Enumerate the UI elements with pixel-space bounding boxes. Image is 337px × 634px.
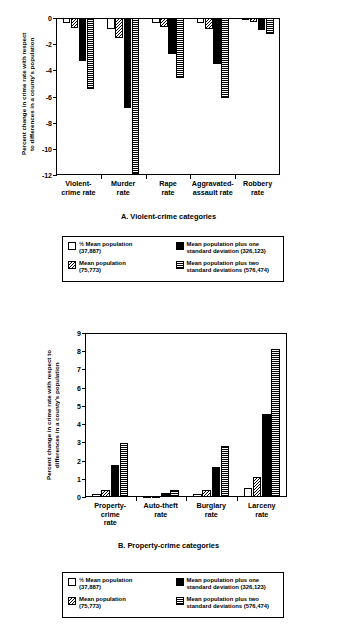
panel-b-x-label: Burglary rate: [186, 502, 237, 519]
panel-a-ytick-label: -10: [32, 145, 52, 152]
legend-swatch-plus-two-sd-icon: [176, 597, 184, 605]
bar: [92, 494, 101, 497]
panel-a-ytick-label: -8: [32, 119, 52, 126]
panel-b-x-label: Auto-theft rate: [136, 502, 187, 519]
legend-label-plus-two-sd: Mean population plus two standard deviat…: [187, 596, 270, 610]
bar: [152, 18, 160, 23]
bar: [262, 414, 271, 497]
panel-a-ytick-mark: [53, 175, 57, 176]
legend-label-mean: Mean population (75,773): [79, 260, 126, 274]
bar: [258, 18, 266, 30]
legend-item-plus-two-sd: Mean population plus two standard deviat…: [176, 596, 280, 613]
panel-a-caption: A. Violent-crime categories: [0, 212, 337, 221]
panel-b-xtick-mark: [136, 497, 137, 501]
bar: [202, 490, 211, 497]
legend-swatch-plus-two-sd-icon: [176, 261, 184, 269]
panel-b-ytick-label: 9: [61, 330, 81, 337]
panel-a-xtick-mark: [101, 175, 102, 179]
legend-swatch-half-mean-icon: [68, 578, 76, 586]
panel-a-x-label: Aggravated- assault rate: [190, 180, 235, 197]
bar: [266, 18, 274, 34]
panel-b-ytick-label: 3: [61, 439, 81, 446]
panel-b-ytick-label: 4: [61, 421, 81, 428]
legend-label-plus-two-sd: Mean population plus two standard deviat…: [187, 260, 270, 274]
panel-a-ytick-label: -6: [32, 93, 52, 100]
bar: [120, 443, 129, 497]
panel-b: Percent change in crime rate with respec…: [0, 325, 337, 565]
bar: [176, 18, 184, 78]
legend-label-plus-one-sd: Mean population plus one standard deviat…: [187, 577, 266, 591]
panel-b-x-label: Property- crime rate: [85, 502, 136, 528]
legend-panel-b: ½ Mean population (37,887)Mean populatio…: [62, 572, 284, 618]
bar: [124, 18, 132, 108]
legend-label-plus-one-sd: Mean population plus one standard deviat…: [187, 241, 266, 255]
bar: [193, 494, 202, 497]
panel-a-xtick-mark: [146, 175, 147, 179]
panel-a: Percent change in crime rate with respec…: [0, 0, 337, 225]
bar: [170, 490, 179, 497]
bar: [242, 18, 250, 20]
crime-rate-figure: Percent change in crime rate with respec…: [0, 0, 337, 634]
legend-swatch-plus-one-sd-icon: [176, 578, 184, 586]
panel-a-ytick-label: -12: [32, 172, 52, 179]
legend-item-plus-two-sd: Mean population plus two standard deviat…: [176, 260, 280, 277]
panel-b-ytick-mark: [82, 497, 86, 498]
bar: [221, 18, 229, 98]
panel-a-ytick-label: -2: [32, 41, 52, 48]
bar: [132, 18, 140, 174]
legend-swatch-half-mean-icon: [68, 242, 76, 250]
panel-b-xtick-mark: [186, 497, 187, 501]
panel-b-ytick-label: 6: [61, 384, 81, 391]
legend-swatch-plus-one-sd-icon: [176, 242, 184, 250]
panel-b-ytick-label: 1: [61, 475, 81, 482]
bar: [101, 490, 110, 497]
legend-item-half-mean: ½ Mean population (37,887): [68, 241, 172, 258]
legend-label-half-mean: ½ Mean population (37,887): [79, 577, 132, 591]
bar: [79, 18, 87, 61]
panel-b-ytick-label: 5: [61, 402, 81, 409]
bar: [212, 467, 221, 497]
panel-a-x-label: Rape rate: [146, 180, 191, 197]
panel-b-x-label: Larceny rate: [237, 502, 288, 519]
bar: [63, 18, 71, 23]
legend-item-mean: Mean population (75,773): [68, 596, 172, 613]
panel-b-caption: B. Property-crime categories: [0, 541, 337, 550]
legend-swatch-mean-icon: [68, 261, 76, 269]
bar: [71, 18, 79, 28]
panel-b-xtick-mark: [237, 497, 238, 501]
bar: [168, 18, 176, 54]
panel-a-ytick-label: -4: [32, 67, 52, 74]
panel-a-x-label: Violent- crime rate: [56, 180, 101, 197]
panel-a-xtick-mark: [235, 175, 236, 179]
bar: [271, 349, 280, 497]
bar: [205, 18, 213, 29]
bar: [115, 18, 123, 38]
legend-item-plus-one-sd: Mean population plus one standard deviat…: [176, 577, 280, 594]
panel-b-ytick-label: 8: [61, 348, 81, 355]
bar: [161, 493, 170, 497]
bar: [87, 18, 95, 89]
bar: [244, 488, 253, 497]
panel-a-x-label: Robbery rate: [235, 180, 280, 197]
panel-b-ytick-label: 2: [61, 457, 81, 464]
bar: [221, 446, 230, 497]
bar: [107, 18, 115, 29]
bar: [111, 465, 120, 497]
legend-label-mean: Mean population (75,773): [79, 596, 126, 610]
legend-item-half-mean: ½ Mean population (37,887): [68, 577, 172, 594]
bar: [250, 18, 258, 22]
panel-b-ytick-label: 0: [61, 494, 81, 501]
legend-item-plus-one-sd: Mean population plus one standard deviat…: [176, 241, 280, 258]
legend-label-half-mean: ½ Mean population (37,887): [79, 241, 132, 255]
panel-b-y-axis-label: Percent change in crime rate with respec…: [45, 329, 61, 501]
bar: [160, 18, 168, 27]
bar: [213, 18, 221, 64]
panel-a-x-label: Murder rate: [101, 180, 146, 197]
legend-item-mean: Mean population (75,773): [68, 260, 172, 277]
panel-b-ytick-label: 7: [61, 366, 81, 373]
legend-swatch-mean-icon: [68, 597, 76, 605]
bar: [143, 496, 152, 498]
panel-a-ytick-label: 0: [32, 15, 52, 22]
bar: [152, 496, 161, 498]
bar: [253, 477, 262, 497]
